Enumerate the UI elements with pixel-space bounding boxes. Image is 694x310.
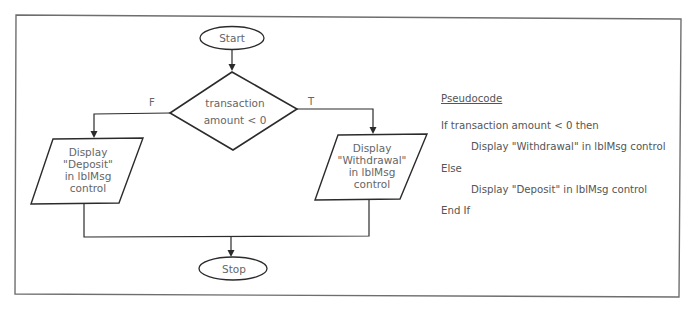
- withdrawal-line-4: control: [354, 178, 390, 190]
- withdrawal-output-parallelogram: Display "Withdrawal" in lblMsg control: [315, 134, 427, 200]
- deposit-line-1: Display: [69, 146, 108, 158]
- deposit-output-parallelogram: Display "Deposit" in lblMsg control: [31, 138, 143, 204]
- pseudocode-line-else: Else: [441, 158, 666, 179]
- pseudocode-line-else-action: Display "Deposit" in lblMsg control: [441, 179, 666, 200]
- start-label: Start: [219, 32, 245, 44]
- true-branch-label: T: [307, 96, 315, 107]
- pseudocode-block: Pseudocode If transaction amount < 0 the…: [441, 92, 666, 221]
- arrow-start-to-decision: [229, 50, 236, 71]
- pseudocode-heading: Pseudocode: [441, 92, 666, 106]
- decision-line-2: amount < 0: [204, 114, 267, 126]
- pseudocode-line-then-action: Display "Withdrawal" in lblMsg control: [441, 136, 666, 157]
- withdrawal-line-1: Display: [353, 142, 392, 154]
- decision-diamond: transaction amount < 0: [170, 72, 297, 150]
- withdrawal-line-3: in lblMsg: [349, 166, 396, 178]
- merge-connector: [84, 200, 369, 257]
- true-branch-connector: [297, 109, 377, 134]
- start-terminal: Start: [200, 27, 264, 50]
- deposit-line-3: in lblMsg: [65, 170, 112, 182]
- false-branch-connector: [91, 113, 171, 138]
- deposit-line-2: "Deposit": [63, 158, 113, 170]
- decision-line-1: transaction: [205, 97, 264, 109]
- withdrawal-line-2: "Withdrawal": [338, 154, 407, 166]
- pseudocode-line-if: If transaction amount < 0 then: [441, 115, 666, 136]
- stop-label: Stop: [222, 263, 246, 275]
- stop-terminal: Stop: [199, 257, 267, 280]
- deposit-line-4: control: [70, 182, 106, 194]
- false-branch-label: F: [149, 97, 155, 108]
- pseudocode-line-endif: End If: [441, 200, 666, 221]
